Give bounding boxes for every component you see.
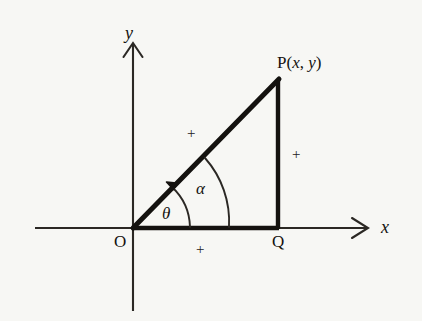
sign-plus-hypotenuse: + bbox=[187, 126, 195, 141]
point-label-Q: Q bbox=[272, 233, 284, 250]
angle-arc-alpha bbox=[205, 158, 229, 227]
angle-label-alpha: α bbox=[196, 180, 205, 197]
diagram-canvas bbox=[0, 0, 422, 321]
y-axis bbox=[124, 43, 143, 311]
y-axis-label: y bbox=[125, 24, 133, 42]
point-label-P-comma: , bbox=[300, 53, 309, 72]
point-label-P: P(x, y) bbox=[277, 54, 321, 71]
origin-label-O: O bbox=[114, 233, 126, 250]
point-label-P-y: y bbox=[308, 53, 316, 72]
triangle-OQP bbox=[133, 79, 279, 229]
point-label-P-x: x bbox=[292, 53, 300, 72]
hypotenuse-OP bbox=[133, 79, 279, 228]
sign-plus-horizontal-leg: + bbox=[196, 242, 204, 257]
geometry-diagram: y x P(x, y) O Q θ α + + + bbox=[0, 0, 422, 321]
x-axis-label: x bbox=[381, 218, 389, 236]
sign-plus-vertical-leg: + bbox=[292, 147, 300, 162]
angle-label-theta: θ bbox=[162, 205, 170, 222]
point-label-P-paren-close: ) bbox=[316, 53, 322, 72]
